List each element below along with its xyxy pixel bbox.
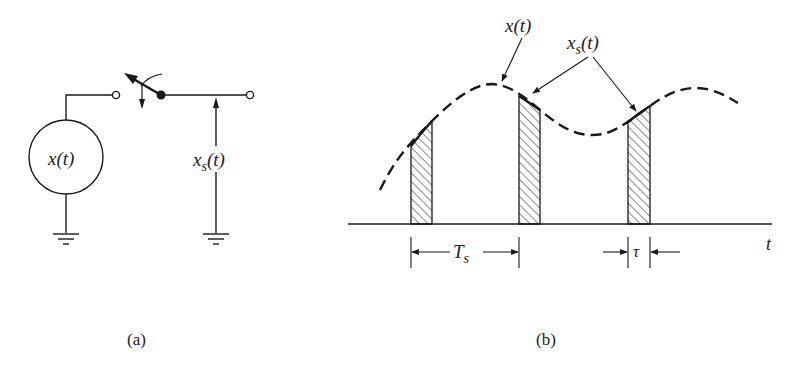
sample-pulse-2: [519, 96, 540, 224]
period-label: Ts: [453, 241, 470, 266]
caption-b: (b): [536, 330, 556, 349]
ground-icon: [53, 234, 79, 244]
input-terminal: [112, 91, 119, 98]
output-label: xs(t): [192, 149, 225, 174]
source-wire: [66, 95, 112, 120]
sampling-switch: [124, 73, 165, 109]
sampled-pointer-2: [593, 57, 636, 111]
sample-pulse-3: [628, 106, 650, 224]
signal-curve: [380, 84, 738, 190]
ground-icon: [203, 234, 229, 244]
sampled-pointer-1: [533, 57, 588, 93]
sampled-signal-label: xs(t): [566, 32, 599, 57]
time-axis-label: t: [766, 234, 772, 254]
figure-canvas: x(t) xs(t) (a) x(t) xs(t) t Ts τ (b): [0, 0, 796, 373]
waveform-plot: [348, 38, 772, 268]
output-terminal: [246, 91, 253, 98]
caption-a: (a): [127, 330, 146, 349]
source-label: x(t): [47, 148, 74, 170]
signal-pointer: [502, 38, 522, 81]
signal-label: x(t): [504, 15, 531, 37]
sample-pulse-1: [411, 121, 432, 224]
pulse-width-label: τ: [633, 242, 640, 261]
